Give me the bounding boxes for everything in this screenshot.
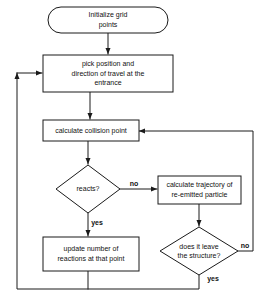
node-pick-position: pick position and direction of travel at… <box>43 55 173 92</box>
edge-label-reacts-yes: yes <box>91 219 103 227</box>
edge-label-reacts-no: no <box>130 180 139 187</box>
start-label-line-2: points <box>99 21 118 29</box>
pick-position-label-line-2: direction of travel at the <box>72 70 145 77</box>
leaves-label-line-1: does it leave <box>179 243 218 250</box>
start-label-line-1: Initialize grid <box>89 11 128 19</box>
node-update: update number of reactions at that point <box>43 237 139 271</box>
edge-label-leaves-yes: yes <box>207 275 219 283</box>
reacts-label: reacts? <box>77 185 100 192</box>
edge-label-leaves-no: no <box>241 242 250 249</box>
node-collision: calculate collision point <box>43 120 139 141</box>
node-reacts: reacts? <box>56 165 120 213</box>
update-label-line-1: update number of <box>64 245 119 253</box>
trajectory-label-line-1: calculate trajectory of <box>166 181 232 189</box>
trajectory-label-line-2: re-emitted particle <box>171 191 227 199</box>
leaves-label-line-2: the structure? <box>178 252 221 259</box>
node-start: Initialize grid points <box>48 7 168 33</box>
leaves-diamond-shape <box>160 227 238 275</box>
update-label-line-2: reactions at that point <box>58 255 125 263</box>
node-trajectory: calculate trajectory of re-emitted parti… <box>158 176 241 204</box>
pick-position-label-line-3: entrance <box>94 79 121 86</box>
trajectory-box-shape <box>158 176 241 204</box>
pick-position-label-line-1: pick position and <box>82 60 134 68</box>
collision-label: calculate collision point <box>55 127 127 135</box>
node-leaves: does it leave the structure? <box>160 227 238 275</box>
flowchart-diagram: Initialize grid points pick position and… <box>0 0 275 307</box>
flowchart-canvas: Initialize grid points pick position and… <box>0 0 275 307</box>
